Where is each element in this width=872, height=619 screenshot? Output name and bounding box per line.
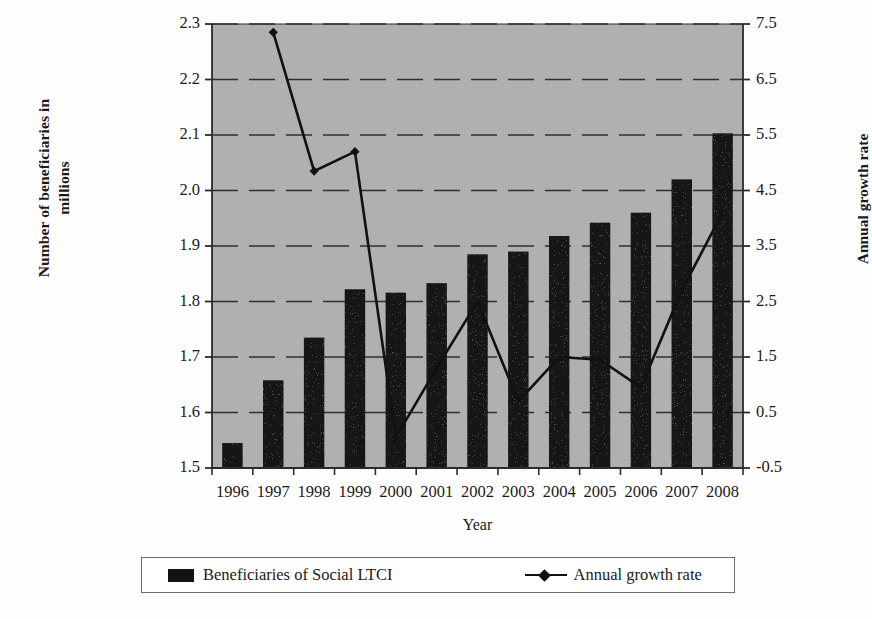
y-tick-right-0: -0.5 [756,459,806,475]
y-tick-left-8: 2.3 [154,15,200,31]
chart-figure: Number of beneficiaries in millions Annu… [0,0,872,619]
x-tick-2007: 2007 [661,482,702,502]
x-tick-2006: 2006 [620,482,661,502]
y-tick-right-4: 3.5 [756,237,806,253]
x-tick-2002: 2002 [457,482,498,502]
legend-bar-label: Beneficiaries of Social LTCI [203,565,393,585]
y-tick-right-6: 5.5 [756,126,806,142]
plot-area [0,0,872,619]
y-tick-right-5: 4.5 [756,182,806,198]
y-tick-right-7: 6.5 [756,71,806,87]
chart-legend: Beneficiaries of Social LTCI Annual grow… [141,557,735,593]
legend-line-label: Annual growth rate [574,565,702,585]
x-tick-1998: 1998 [294,482,335,502]
x-tick-2001: 2001 [416,482,457,502]
x-tick-2000: 2000 [375,482,416,502]
legend-line-marker-icon [525,568,567,582]
y-tick-left-7: 2.2 [154,71,200,87]
y-tick-left-1: 1.6 [154,404,200,420]
legend-entry-line: Annual growth rate [525,565,702,585]
y-tick-right-1: 0.5 [756,404,806,420]
y-tick-left-6: 2.1 [154,126,200,142]
x-tick-2003: 2003 [498,482,539,502]
y-tick-left-4: 1.9 [154,237,200,253]
x-tick-1996: 1996 [212,482,253,502]
x-tick-2004: 2004 [539,482,580,502]
y-tick-left-3: 1.8 [154,293,200,309]
x-tick-1999: 1999 [335,482,376,502]
legend-entry-bars: Beneficiaries of Social LTCI [168,565,393,585]
y-tick-left-5: 2.0 [154,182,200,198]
y-tick-right-2: 1.5 [756,348,806,364]
x-tick-1997: 1997 [253,482,294,502]
y-tick-left-0: 1.5 [154,459,200,475]
x-tick-2008: 2008 [702,482,743,502]
legend-bar-swatch-icon [168,569,194,582]
y-tick-right-8: 7.5 [756,15,806,31]
x-tick-2005: 2005 [580,482,621,502]
y-tick-right-3: 2.5 [756,293,806,309]
y-tick-left-2: 1.7 [154,348,200,364]
